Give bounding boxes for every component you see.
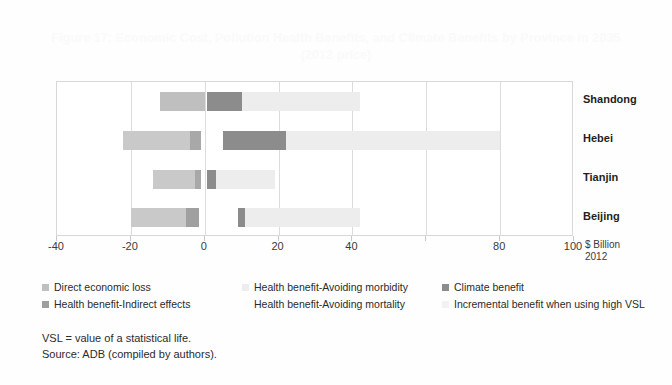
tick-label--40: -40 [48,240,64,252]
bar-segment [123,131,189,150]
tick-label-80: 80 [493,240,505,252]
bar-row-hebei [57,121,572,160]
tick-label-100: 100 [564,240,582,252]
category-label-shandong: Shandong [583,93,637,105]
legend-item[interactable]: Incremental benefit when using high VSL [442,298,645,311]
legend-label: Incremental benefit when using high VSL [454,298,645,311]
category-label-beijing: Beijing [583,210,620,222]
legend-label: Direct economic loss [54,281,151,294]
figure-notes: VSL = value of a statistical life. Sourc… [42,330,217,362]
note-source: Source: ADB (compiled by authors). [42,346,217,362]
figure-container: Figure 17: Economic Cost, Pollution Heal… [0,0,672,385]
x-axis-unit-label: $ Billion 2012 [585,239,620,263]
bar-segment [195,170,201,189]
legend-label: Health benefit-Indirect effects [54,298,190,311]
bar-segment [207,92,242,111]
tick-label-40: 40 [345,240,357,252]
bar-segment [238,208,245,227]
tick-label-0: 0 [201,240,207,252]
bar-row-beijing [57,198,572,237]
legend-item[interactable]: Climate benefit [442,281,524,294]
bar-segment [160,92,204,111]
legend-item[interactable]: Health benefit-Avoiding morbidity [242,281,408,294]
bar-segment [131,208,186,227]
bar-rows [57,82,572,235]
legend-label: Health benefit-Avoiding mortality [254,298,405,311]
figure-title-line-2: (2012 price) [0,47,672,64]
bar-segment [223,131,286,150]
legend-label: Health benefit-Avoiding morbidity [254,281,408,294]
note-vsl: VSL = value of a statistical life. [42,330,217,346]
unit-line-1: $ Billion [585,239,620,250]
tick-60 [425,236,426,241]
legend-swatch-icon [242,301,249,308]
bar-row-shandong [57,82,572,121]
bar-segment [216,170,275,189]
legend-swatch-icon [442,301,449,308]
bar-segment [286,131,500,150]
category-label-tianjin: Tianjin [583,171,618,183]
legend-label: Climate benefit [454,281,524,294]
figure-title: Figure 17: Economic Cost, Pollution Heal… [0,30,672,64]
legend-swatch-icon [242,284,249,291]
bar-segment [153,170,195,189]
bar-segment [245,208,359,227]
tick-label-20: 20 [271,240,283,252]
bar-segment [242,92,360,111]
unit-line-2: 2012 [585,251,607,262]
category-label-hebei: Hebei [583,132,613,144]
tick-label--20: -20 [122,240,138,252]
bar-row-tianjin [57,160,572,199]
bar-segment [190,131,201,150]
legend-swatch-icon [42,284,49,291]
bar-segment [186,208,199,227]
plot-area [56,81,573,236]
legend-swatch-icon [442,284,449,291]
legend-item[interactable]: Direct economic loss [42,281,151,294]
legend-item[interactable]: Health benefit-Avoiding mortality [242,298,405,311]
figure-title-line-1: Figure 17: Economic Cost, Pollution Heal… [0,30,672,47]
legend-item[interactable]: Health benefit-Indirect effects [42,298,190,311]
legend-swatch-icon [42,301,49,308]
bar-segment [207,170,216,189]
